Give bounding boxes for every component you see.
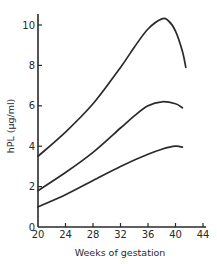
x-tick-label: 24 [59,229,72,240]
plot-area [38,18,186,206]
x-tick-label: 32 [114,229,127,240]
hpl-chart: 024681020242832364044 Weeks of gestation… [0,0,217,264]
x-tick-label: 28 [87,229,100,240]
x-axis-title: Weeks of gestation [75,247,166,258]
x-tick-label: 40 [169,229,182,240]
y-tick-label: 2 [29,181,35,192]
y-tick-label: 6 [29,100,35,111]
curve-middle [38,102,182,191]
y-tick-label: 8 [29,60,35,71]
x-tick-label: 44 [197,229,210,240]
y-tick-label: 10 [22,20,35,31]
x-tick-label: 36 [142,229,155,240]
y-tick-label: 4 [29,141,35,152]
y-axis-title: hPL (μg/ml) [5,99,16,154]
x-tick-label: 20 [32,229,45,240]
